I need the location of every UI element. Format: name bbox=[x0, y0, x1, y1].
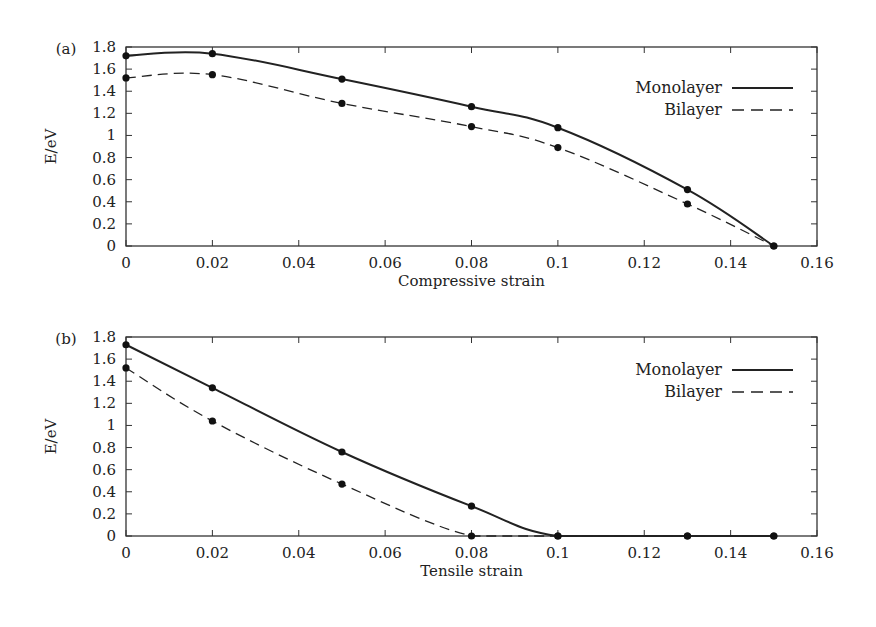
y-tick-label: 1.8 bbox=[92, 328, 116, 346]
data-point-bilayer bbox=[770, 242, 777, 249]
x-tick-label: 0.1 bbox=[546, 544, 570, 562]
figure: 00.020.040.060.080.10.120.140.1600.20.40… bbox=[0, 0, 876, 627]
data-point-monolayer bbox=[684, 186, 691, 193]
y-tick-label: 0 bbox=[106, 527, 116, 545]
data-point-bilayer bbox=[122, 74, 129, 81]
data-point-bilayer bbox=[209, 417, 216, 424]
y-tick-label: 0.4 bbox=[92, 193, 116, 211]
data-point-bilayer bbox=[684, 200, 691, 207]
y-axis-label: E/eV bbox=[42, 417, 60, 454]
y-tick-label: 1.2 bbox=[92, 394, 116, 412]
data-point-bilayer bbox=[338, 480, 345, 487]
data-point-monolayer bbox=[338, 448, 345, 455]
data-point-bilayer bbox=[770, 532, 777, 539]
x-tick-label: 0 bbox=[121, 544, 131, 562]
x-tick-label: 0.12 bbox=[628, 544, 661, 562]
data-point-bilayer bbox=[554, 144, 561, 151]
legend-label-bilayer: Bilayer bbox=[664, 100, 722, 119]
y-tick-label: 0.8 bbox=[92, 149, 116, 167]
data-point-monolayer bbox=[554, 124, 561, 131]
x-tick-label: 0.08 bbox=[455, 544, 488, 562]
data-point-bilayer bbox=[684, 532, 691, 539]
x-tick-label: 0.04 bbox=[282, 254, 315, 272]
x-tick-label: 0.16 bbox=[800, 544, 833, 562]
y-tick-label: 0.8 bbox=[92, 439, 116, 457]
y-tick-label: 0.6 bbox=[92, 171, 116, 189]
x-tick-label: 0 bbox=[121, 254, 131, 272]
x-tick-label: 0.02 bbox=[196, 544, 229, 562]
x-tick-label: 0.12 bbox=[628, 254, 661, 272]
data-point-bilayer bbox=[338, 100, 345, 107]
data-point-monolayer bbox=[209, 50, 216, 57]
y-tick-label: 1.6 bbox=[92, 350, 116, 368]
panel-label: (a) bbox=[56, 40, 77, 58]
x-tick-label: 0.06 bbox=[368, 254, 401, 272]
y-axis-label: E/eV bbox=[42, 127, 60, 164]
data-point-bilayer bbox=[468, 532, 475, 539]
legend-label-monolayer: Monolayer bbox=[635, 360, 722, 379]
legend-label-monolayer: Monolayer bbox=[635, 78, 722, 97]
x-axis-label: Compressive strain bbox=[398, 272, 545, 290]
data-point-monolayer bbox=[122, 341, 129, 348]
data-point-bilayer bbox=[209, 71, 216, 78]
data-point-bilayer bbox=[122, 364, 129, 371]
y-tick-label: 0.4 bbox=[92, 483, 116, 501]
y-tick-label: 0.2 bbox=[92, 505, 116, 523]
data-point-monolayer bbox=[122, 52, 129, 59]
x-tick-label: 0.1 bbox=[546, 254, 570, 272]
legend-label-bilayer: Bilayer bbox=[664, 382, 722, 401]
data-point-monolayer bbox=[468, 103, 475, 110]
y-tick-label: 1 bbox=[106, 416, 116, 434]
x-tick-label: 0.04 bbox=[282, 544, 315, 562]
y-tick-label: 1 bbox=[106, 126, 116, 144]
y-tick-label: 1.4 bbox=[92, 82, 116, 100]
x-tick-label: 0.14 bbox=[714, 254, 747, 272]
x-tick-label: 0.16 bbox=[800, 254, 833, 272]
x-axis-label: Tensile strain bbox=[420, 562, 523, 580]
x-tick-label: 0.14 bbox=[714, 544, 747, 562]
data-point-monolayer bbox=[338, 75, 345, 82]
x-tick-label: 0.02 bbox=[196, 254, 229, 272]
y-tick-label: 1.2 bbox=[92, 104, 116, 122]
data-point-bilayer bbox=[468, 123, 475, 130]
data-point-monolayer bbox=[468, 503, 475, 510]
data-point-bilayer bbox=[554, 532, 561, 539]
y-tick-label: 1.4 bbox=[92, 372, 116, 390]
panel-a: 00.020.040.060.080.10.120.140.1600.20.40… bbox=[42, 38, 834, 290]
panel-label: (b) bbox=[55, 330, 76, 348]
data-point-monolayer bbox=[209, 384, 216, 391]
x-tick-label: 0.08 bbox=[455, 254, 488, 272]
panel-b: 00.020.040.060.080.10.120.140.1600.20.40… bbox=[42, 328, 834, 580]
x-tick-label: 0.06 bbox=[368, 544, 401, 562]
y-tick-label: 0.2 bbox=[92, 215, 116, 233]
y-tick-label: 1.6 bbox=[92, 60, 116, 78]
y-tick-label: 0.6 bbox=[92, 461, 116, 479]
y-tick-label: 0 bbox=[106, 237, 116, 255]
y-tick-label: 1.8 bbox=[92, 38, 116, 56]
